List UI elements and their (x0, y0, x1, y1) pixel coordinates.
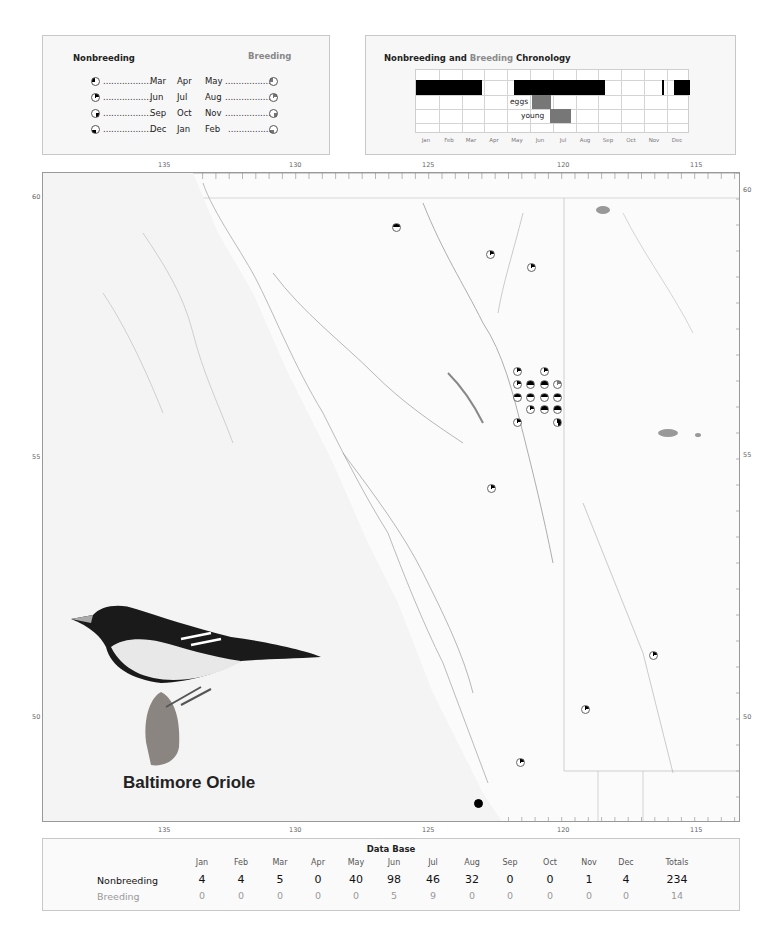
pie-quarter-icon (91, 77, 100, 86)
observation-point[interactable] (540, 380, 549, 389)
observation-point[interactable] (553, 418, 562, 427)
pie-quarter-icon (269, 125, 278, 134)
observation-point[interactable] (526, 380, 535, 389)
observation-point[interactable] (540, 405, 549, 414)
observation-point[interactable] (649, 651, 658, 660)
observation-point[interactable] (581, 705, 590, 714)
eggs-label: eggs (510, 97, 528, 106)
lon-label-bottom: 120 (557, 826, 569, 834)
lon-label-top: 120 (557, 161, 569, 169)
distribution-map[interactable]: Baltimore Oriole (42, 172, 740, 822)
young-bar (550, 109, 571, 123)
lat-label-left: 60 (32, 193, 40, 201)
pie-quarter-icon (91, 125, 100, 134)
lat-label-right: 60 (743, 186, 751, 194)
lon-label-top: 130 (289, 161, 301, 169)
nonbreeding-bar (662, 80, 664, 95)
pie-quarter-icon (91, 93, 100, 102)
pie-quarter-icon (269, 93, 278, 102)
lat-label-right: 55 (743, 451, 751, 459)
nonbreeding-row-label: Nonbreeding (97, 875, 158, 886)
legend-row: .................. Dec Jan Feb .........… (43, 123, 331, 137)
lon-label-top: 135 (158, 161, 170, 169)
observation-point[interactable] (516, 758, 525, 767)
legend-row: .................. Mar Apr May .........… (43, 75, 331, 89)
observation-point[interactable] (513, 418, 522, 427)
season-legend: Nonbreeding Breeding .................. … (42, 35, 330, 155)
eggs-bar (532, 95, 551, 109)
observation-point[interactable] (513, 393, 522, 402)
lat-label-left: 55 (32, 453, 40, 461)
nonbreeding-bar (674, 80, 690, 95)
observation-point[interactable] (474, 799, 483, 808)
observation-point[interactable] (553, 393, 562, 402)
database-title: Data Base (43, 844, 739, 854)
database-table: Data Base Nonbreeding Breeding Jan Feb M… (42, 838, 740, 911)
pie-quarter-icon (91, 109, 100, 118)
lon-label-bottom: 115 (690, 826, 702, 834)
bird-illustration (71, 597, 361, 772)
observation-point[interactable] (526, 405, 535, 414)
legend-nonbreeding-title: Nonbreeding (73, 53, 135, 63)
nonbreeding-bar (416, 80, 482, 95)
pie-quarter-icon (269, 109, 278, 118)
lat-label-right: 50 (743, 713, 751, 721)
chronology-title: Nonbreeding and Breeding Chronology (384, 53, 571, 63)
observation-point[interactable] (486, 250, 495, 259)
young-label: young (521, 111, 544, 120)
lat-label-left: 50 (32, 713, 40, 721)
observation-point[interactable] (487, 484, 496, 493)
lon-label-bottom: 125 (422, 826, 434, 834)
chronology-panel: Nonbreeding and Breeding Chronology eggs… (365, 35, 736, 155)
observation-point[interactable] (540, 393, 549, 402)
legend-breeding-title: Breeding (248, 51, 291, 61)
breeding-row-label: Breeding (97, 891, 140, 902)
observation-point[interactable] (527, 263, 536, 272)
observation-point[interactable] (392, 223, 401, 232)
observation-point[interactable] (553, 405, 562, 414)
observation-point[interactable] (526, 393, 535, 402)
lon-label-top: 115 (690, 161, 702, 169)
nonbreeding-bar (514, 80, 605, 95)
legend-row: .................. Jun Jul Aug .........… (43, 91, 331, 105)
lon-label-top: 125 (422, 161, 434, 169)
legend-row: .................. Sep Oct Nov .........… (43, 107, 331, 121)
observation-point[interactable] (540, 367, 549, 376)
observation-point[interactable] (513, 367, 522, 376)
chronology-grid: eggs young (415, 69, 689, 133)
observation-point[interactable] (553, 380, 562, 389)
observation-point[interactable] (513, 380, 522, 389)
lon-label-bottom: 130 (289, 826, 301, 834)
lon-label-bottom: 135 (158, 826, 170, 834)
pie-quarter-icon (269, 77, 278, 86)
species-name: Baltimore Oriole (123, 773, 255, 793)
